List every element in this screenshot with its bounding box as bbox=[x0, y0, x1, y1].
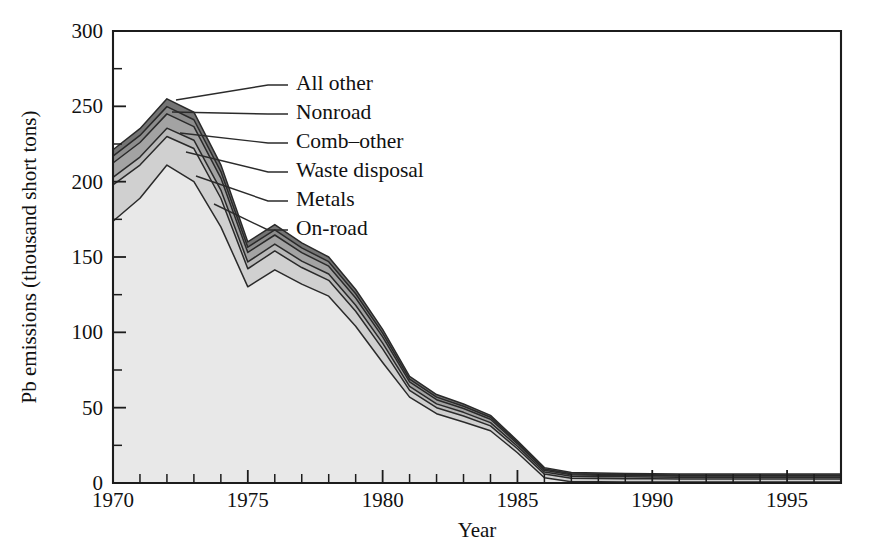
x-tick-label: 1995 bbox=[766, 488, 808, 512]
x-tick-label: 1970 bbox=[92, 488, 134, 512]
leader-line-all-other bbox=[176, 85, 288, 100]
y-tick-label: 100 bbox=[72, 320, 104, 344]
legend-label-waste-disposal: Waste disposal bbox=[296, 158, 424, 182]
legend-label-nonroad: Nonroad bbox=[296, 100, 371, 124]
x-axis-tick-labels: 197019751980198519901995 bbox=[92, 488, 808, 512]
y-axis-tick-labels: 050100150200250300 bbox=[72, 19, 104, 495]
y-axis-title: Pb emissions (thousand short tons) bbox=[17, 111, 41, 404]
stacked-areas bbox=[113, 99, 841, 483]
x-tick-label: 1985 bbox=[496, 488, 538, 512]
stacked-area-chart: 050100150200250300 197019751980198519901… bbox=[0, 0, 879, 557]
legend-label-on-road: On-road bbox=[296, 216, 368, 240]
legend-label-all-other: All other bbox=[296, 71, 373, 95]
y-tick-label: 300 bbox=[72, 19, 104, 43]
y-tick-label: 200 bbox=[72, 170, 104, 194]
legend-label-metals: Metals bbox=[296, 187, 355, 211]
legend-label-comb-other: Comb–other bbox=[296, 129, 404, 153]
x-tick-label: 1980 bbox=[362, 488, 404, 512]
figure-container: 050100150200250300 197019751980198519901… bbox=[0, 0, 879, 557]
y-tick-label: 150 bbox=[72, 245, 104, 269]
x-tick-label: 1990 bbox=[631, 488, 673, 512]
y-tick-label: 250 bbox=[72, 94, 104, 118]
x-axis-title: Year bbox=[458, 518, 497, 542]
x-tick-label: 1975 bbox=[227, 488, 269, 512]
legend-labels: All otherNonroadComb–otherWaste disposal… bbox=[296, 71, 424, 240]
y-tick-label: 50 bbox=[82, 396, 103, 420]
